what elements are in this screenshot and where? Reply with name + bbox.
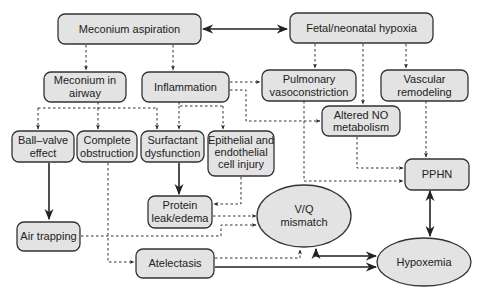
node-ball-valve-effect: Ball–valve effect bbox=[12, 131, 74, 162]
label: Pulmonary bbox=[283, 73, 336, 85]
label: Atelectasis bbox=[148, 257, 202, 269]
label: vasoconstriction bbox=[270, 86, 349, 98]
label: dysfunction bbox=[145, 147, 201, 159]
node-vascular-remodeling: Vascular remodeling bbox=[381, 70, 468, 101]
label: endothelial bbox=[214, 146, 267, 158]
label: metabolism bbox=[333, 121, 389, 133]
node-atelectasis: Atelectasis bbox=[136, 249, 214, 278]
pathophysiology-diagram: Meconium aspiration Fetal/neonatal hypox… bbox=[0, 0, 483, 288]
edge-airway-branches bbox=[38, 102, 157, 108]
node-meconium-aspiration: Meconium aspiration bbox=[58, 14, 201, 44]
label: mismatch bbox=[280, 216, 327, 228]
label: Fetal/neonatal hypoxia bbox=[306, 22, 418, 34]
node-complete-obstruction: Complete obstruction bbox=[77, 131, 137, 162]
edge-vq-hypoxemia bbox=[316, 249, 376, 256]
label: V/Q bbox=[295, 203, 314, 215]
node-inflammation: Inflammation bbox=[142, 72, 229, 102]
edge-no-pphn bbox=[357, 137, 403, 168]
label: Altered NO bbox=[334, 109, 389, 121]
node-vq-mismatch: V/Q mismatch bbox=[257, 185, 351, 247]
label: Complete bbox=[83, 134, 130, 146]
label: Vascular bbox=[404, 73, 446, 85]
node-meconium-in-airway: Meconium in airway bbox=[44, 72, 126, 102]
node-fetal-hypoxia: Fetal/neonatal hypoxia bbox=[290, 13, 433, 43]
label: Inflammation bbox=[154, 81, 217, 93]
edge-epithelial-protein bbox=[214, 177, 241, 204]
label: airway bbox=[69, 87, 101, 99]
label: Hypoxemia bbox=[396, 256, 452, 268]
label: PPHN bbox=[422, 168, 453, 180]
label: effect bbox=[30, 147, 57, 159]
node-air-trapping: Air trapping bbox=[17, 222, 80, 251]
label: Air trapping bbox=[20, 230, 76, 242]
label: Ball–valve bbox=[18, 134, 68, 146]
node-protein-leak-edema: Protein leak/edema bbox=[148, 196, 212, 228]
node-pphn: PPHN bbox=[405, 159, 469, 190]
node-hypoxemia: Hypoxemia bbox=[377, 238, 471, 286]
node-pulmonary-vasoconstriction: Pulmonary vasoconstriction bbox=[262, 70, 356, 101]
label: Epithelial and bbox=[208, 134, 274, 146]
label: remodeling bbox=[397, 86, 451, 98]
label: Meconium aspiration bbox=[79, 23, 181, 35]
label: Meconium in bbox=[54, 74, 116, 86]
label: obstruction bbox=[80, 147, 134, 159]
label: Protein bbox=[163, 199, 198, 211]
node-epithelial-endothelial-injury: Epithelial and endothelial cell injury bbox=[208, 131, 274, 176]
edge-atelectasis-vq bbox=[215, 250, 300, 258]
node-surfactant-dysfunction: Surfactant dysfunction bbox=[141, 131, 204, 162]
node-altered-no-metabolism: Altered NO metabolism bbox=[322, 106, 400, 136]
label: leak/edema bbox=[152, 212, 210, 224]
label: cell injury bbox=[218, 158, 264, 170]
label: Surfactant bbox=[147, 134, 197, 146]
edge-obstruction-atelectasis bbox=[108, 163, 134, 262]
